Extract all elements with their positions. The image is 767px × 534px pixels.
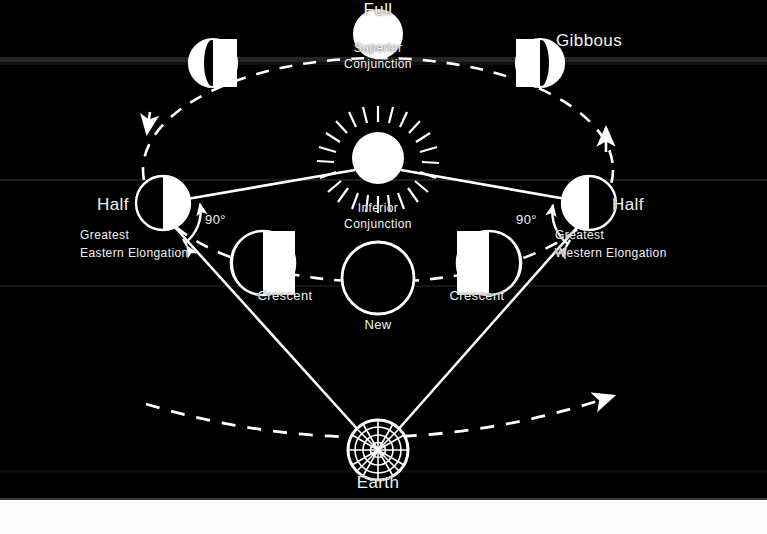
diagram-canvas: Full Superior Conjunction Gibbous Half G… xyxy=(0,0,767,534)
label-half-right: Half xyxy=(612,195,644,215)
label-superior-conjunction-line1: Superior xyxy=(354,41,403,55)
label-half-left: Half xyxy=(97,195,129,215)
label-inferior-conjunction-line2: Conjunction xyxy=(344,217,412,231)
label-crescent-left: Crescent xyxy=(257,288,312,303)
label-crescent-right: Crescent xyxy=(449,288,504,303)
orbit-arrow-left-down xyxy=(147,112,150,133)
label-greatest-western-line2: Western Elongation xyxy=(555,246,667,260)
label-superior-conjunction-line2: Conjunction xyxy=(344,57,412,71)
label-greatest-eastern-line2: Eastern Elongation xyxy=(80,246,189,260)
phase-gibbous-left xyxy=(180,30,250,96)
label-full: Full xyxy=(364,0,393,20)
label-inferior-conjunction-line1: Inferior xyxy=(358,201,399,215)
label-gibbous-right: Gibbous xyxy=(556,31,622,51)
phase-half-right xyxy=(562,176,616,230)
earth-globe-icon xyxy=(348,420,408,480)
label-earth: Earth xyxy=(357,473,400,493)
planet-phases-diagram xyxy=(0,0,767,534)
page-bottom-margin xyxy=(0,500,767,534)
label-new: New xyxy=(364,317,391,332)
label-greatest-eastern-line1: Greatest xyxy=(80,228,129,242)
label-angle-left: 90° xyxy=(205,212,226,227)
label-angle-right: 90° xyxy=(516,212,537,227)
sun-icon xyxy=(317,106,439,213)
phase-half-left xyxy=(136,176,190,230)
label-greatest-western-line1: Greatest xyxy=(555,228,604,242)
phase-new xyxy=(342,242,414,314)
